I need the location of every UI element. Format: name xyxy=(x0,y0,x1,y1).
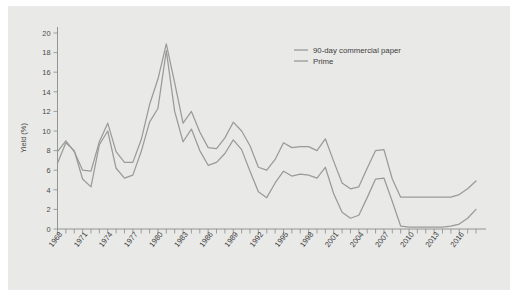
series-lines xyxy=(58,44,477,227)
legend-label-1: 90-day commercial paper xyxy=(313,46,401,55)
legend-label-2: Prime xyxy=(313,57,333,66)
chart-legend: 90-day commercial paperPrime xyxy=(294,46,401,66)
y-tick-label: 16 xyxy=(42,68,50,77)
y-tick-label: 18 xyxy=(42,48,50,57)
x-axis: 1968197119741977198019831986198919921995… xyxy=(47,229,486,249)
chart-figure: 02468101214161820 1968197119741977198019… xyxy=(8,6,510,290)
yield-line-chart: 02468101214161820 1968197119741977198019… xyxy=(8,6,510,290)
y-tick-label: 8 xyxy=(46,146,50,155)
y-tick-label: 4 xyxy=(46,186,50,195)
plot-area: 02468101214161820 1968197119741977198019… xyxy=(8,6,510,290)
y-tick-label: 10 xyxy=(42,127,50,136)
y-tick-label: 20 xyxy=(42,29,50,38)
series-line-2 xyxy=(58,44,477,197)
series-line-1 xyxy=(58,51,477,227)
y-tick-label: 14 xyxy=(42,88,50,97)
y-tick-label: 12 xyxy=(42,107,50,116)
y-axis-title: Yield (%) xyxy=(19,123,28,153)
y-tick-label: 0 xyxy=(46,225,50,234)
y-tick-label: 2 xyxy=(46,205,50,214)
y-axis: 02468101214161820 xyxy=(42,27,57,234)
y-tick-label: 6 xyxy=(46,166,50,175)
